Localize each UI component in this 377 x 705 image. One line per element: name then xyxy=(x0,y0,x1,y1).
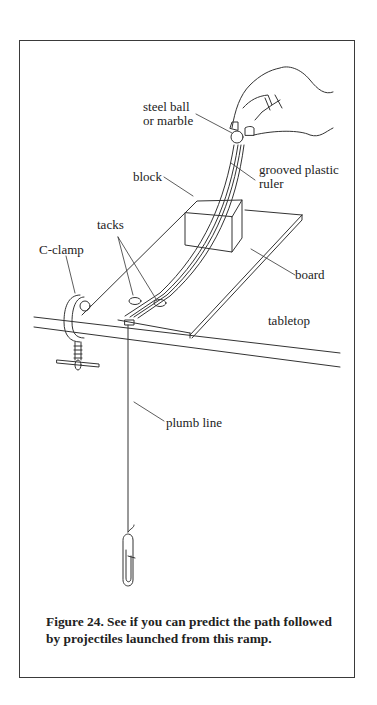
label-tacks: tacks xyxy=(97,218,124,232)
label-grooved-ruler: grooved plastic xyxy=(259,163,339,177)
label-block: block xyxy=(133,170,162,184)
label-ruler: ruler xyxy=(259,177,284,191)
label-tabletop: tabletop xyxy=(268,314,310,328)
paper-clip-icon xyxy=(123,534,135,586)
steel-ball-icon xyxy=(231,131,243,143)
hand-icon xyxy=(230,67,333,136)
label-marble: or marble xyxy=(143,114,193,128)
label-board: board xyxy=(295,268,325,282)
figure-caption: Figure 24. See if you can predict the pa… xyxy=(46,613,336,647)
leader-lines xyxy=(66,114,295,421)
block-icon xyxy=(185,200,242,252)
label-plumb-line: plumb line xyxy=(166,416,222,430)
string-knot xyxy=(128,525,134,532)
label-c-clamp: C-clamp xyxy=(39,243,84,257)
tack-icon xyxy=(129,298,141,305)
label-steel-ball: steel ball xyxy=(143,100,190,114)
